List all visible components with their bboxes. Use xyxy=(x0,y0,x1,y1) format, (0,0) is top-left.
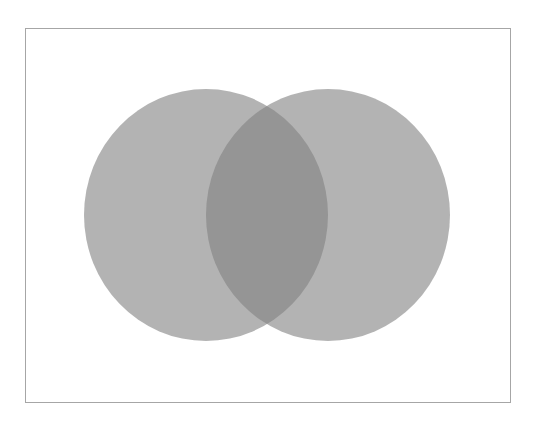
venn-set-right xyxy=(206,89,450,341)
venn-diagram xyxy=(0,0,538,423)
venn-diagram-canvas xyxy=(0,0,538,423)
